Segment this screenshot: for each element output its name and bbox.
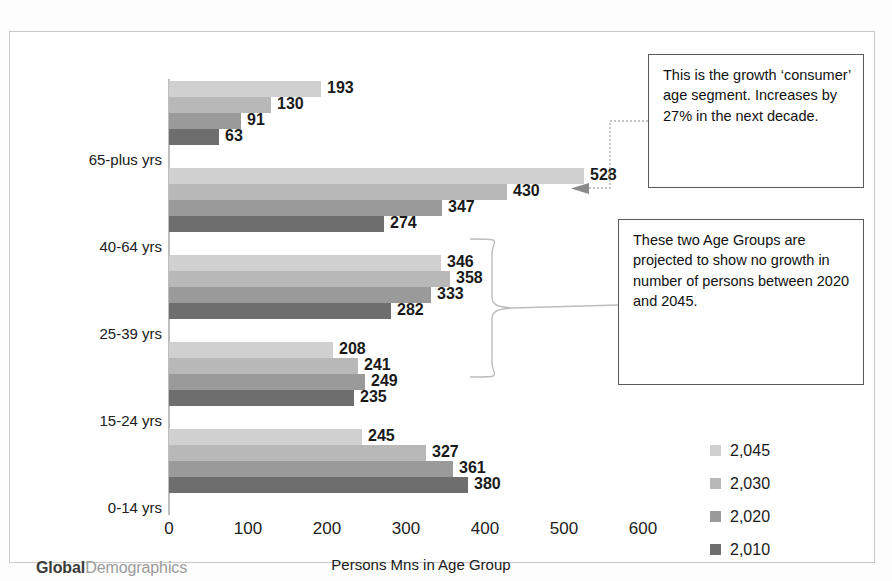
legend-item-2020[interactable]: 2,020 — [710, 500, 850, 533]
bar-group-15-24: 208 241 249 235 — [169, 340, 673, 427]
category-axis: 65-plus yrs 40-64 yrs 25-39 yrs 15-24 yr… — [10, 79, 162, 514]
bar-group-25-39: 346 358 333 282 — [169, 253, 673, 340]
bar-value-65plus-2020: 91 — [247, 112, 265, 128]
callout-growth-consumer[interactable]: This is the growth ‘consumer’ age segmen… — [648, 54, 864, 188]
bar-15-24-2030[interactable] — [169, 358, 358, 374]
legend-label-2045: 2,045 — [730, 442, 770, 460]
bar-value-0-14-2010: 380 — [474, 476, 501, 492]
bar-group-65-plus: 193 130 91 63 — [169, 79, 673, 166]
bar-value-40-64-2020: 347 — [448, 199, 475, 215]
bar-value-15-24-2045: 208 — [339, 341, 366, 357]
callout-no-growth-text: These two Age Groups are projected to sh… — [633, 232, 849, 309]
brand-part-global: Global — [36, 559, 85, 576]
callout-no-growth[interactable]: These two Age Groups are projected to sh… — [618, 219, 864, 385]
bar-15-24-2045[interactable] — [169, 342, 333, 358]
bar-25-39-2030[interactable] — [169, 271, 450, 287]
bar-value-25-39-2010: 282 — [397, 302, 424, 318]
category-label-15-24: 15-24 yrs — [12, 412, 162, 429]
xtick-100: 100 — [234, 519, 262, 539]
bar-value-25-39-2045: 346 — [447, 254, 474, 270]
value-axis-ticks: 0 100 200 300 400 500 600 — [169, 519, 673, 545]
xtick-600: 600 — [629, 519, 657, 539]
legend-label-2010: 2,010 — [730, 541, 770, 559]
bar-0-14-2030[interactable] — [169, 445, 426, 461]
bar-value-40-64-2010: 274 — [390, 215, 417, 231]
legend-swatch-2045-icon — [710, 445, 721, 456]
legend-item-2045[interactable]: 2,045 — [710, 434, 850, 467]
category-label-25-39: 25-39 yrs — [12, 325, 162, 342]
brand-part-demographics: Demographics — [85, 559, 187, 576]
xtick-500: 500 — [550, 519, 578, 539]
bar-0-14-2045[interactable] — [169, 429, 362, 445]
bar-25-39-2045[interactable] — [169, 255, 441, 271]
bar-value-15-24-2010: 235 — [360, 389, 387, 405]
bar-25-39-2010[interactable] — [169, 303, 391, 319]
brand-logo: GlobalDemographics — [36, 559, 187, 577]
xtick-300: 300 — [392, 519, 420, 539]
bar-value-15-24-2020: 249 — [371, 373, 398, 389]
bar-value-0-14-2045: 245 — [368, 428, 395, 444]
category-label-40-64: 40-64 yrs — [12, 238, 162, 255]
category-label-65-plus: 65-plus yrs — [12, 151, 162, 168]
legend-swatch-2010-icon — [710, 544, 721, 555]
bar-value-40-64-2030: 430 — [513, 183, 540, 199]
xtick-200: 200 — [313, 519, 341, 539]
legend-label-2020: 2,020 — [730, 508, 770, 526]
legend-item-2030[interactable]: 2,030 — [710, 467, 850, 500]
bar-0-14-2010[interactable] — [169, 477, 468, 493]
bar-value-65plus-2030: 130 — [277, 96, 304, 112]
legend-item-2010[interactable]: 2,010 — [710, 533, 850, 566]
bar-value-40-64-2045: 528 — [590, 167, 617, 183]
bar-value-0-14-2030: 327 — [432, 444, 459, 460]
bar-15-24-2010[interactable] — [169, 390, 354, 406]
chart-page: 65-plus yrs 40-64 yrs 25-39 yrs 15-24 yr… — [0, 0, 892, 581]
legend-swatch-2030-icon — [710, 478, 721, 489]
bar-value-0-14-2020: 361 — [459, 460, 486, 476]
bar-15-24-2020[interactable] — [169, 374, 365, 390]
plot-area: 193 130 91 63 528 430 347 274 — [169, 79, 673, 514]
x-axis-title: Persons Mns in Age Group — [169, 556, 673, 573]
legend-swatch-2020-icon — [710, 511, 721, 522]
bar-group-40-64: 528 430 347 274 — [169, 166, 673, 253]
bar-value-25-39-2020: 333 — [437, 286, 464, 302]
bar-25-39-2020[interactable] — [169, 287, 431, 303]
category-label-0-14: 0-14 yrs — [12, 499, 162, 516]
bar-value-65plus-2045: 193 — [327, 80, 354, 96]
legend: 2,045 2,030 2,020 2,010 — [710, 434, 850, 566]
bar-value-25-39-2030: 358 — [456, 270, 483, 286]
xtick-0: 0 — [164, 519, 173, 539]
xtick-400: 400 — [471, 519, 499, 539]
bar-65plus-2010[interactable] — [169, 129, 219, 145]
bar-0-14-2020[interactable] — [169, 461, 453, 477]
bar-value-65plus-2010: 63 — [225, 128, 243, 144]
bar-40-64-2010[interactable] — [169, 216, 384, 232]
legend-label-2030: 2,030 — [730, 475, 770, 493]
bar-group-0-14: 245 327 361 380 — [169, 427, 673, 514]
callout-growth-text: This is the growth ‘consumer’ age segmen… — [663, 67, 851, 124]
bar-value-15-24-2030: 241 — [364, 357, 391, 373]
